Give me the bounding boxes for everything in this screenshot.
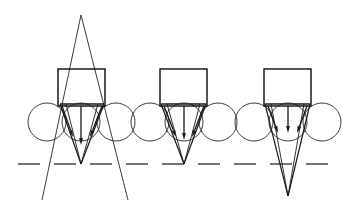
figure-canvas	[0, 0, 343, 216]
ray-diagram-svg	[0, 0, 343, 216]
